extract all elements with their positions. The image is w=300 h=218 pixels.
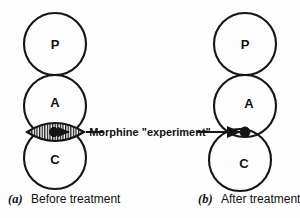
circle-a-label: A: [244, 96, 254, 111]
circle-p-label: P: [241, 37, 250, 52]
panel-a-caption: (a) Before treatment: [8, 189, 121, 206]
morphine-dot: [240, 127, 250, 137]
circle-c-label: C: [239, 156, 249, 171]
circle-a-label: A: [50, 95, 60, 110]
diagram-canvas: P A C (a) Before treatm: [0, 0, 300, 218]
panel-b: P A C (b) After treatment: [198, 13, 300, 206]
circle-p: P: [24, 13, 86, 75]
morphine-dot: [49, 127, 58, 136]
panel-a: P A C (a) Before treatm: [8, 13, 121, 206]
panel-b-caption-index: (b): [198, 192, 213, 206]
circle-p: P: [214, 13, 276, 75]
callout-group: Morphine "experiment": [86, 126, 240, 138]
callout-label: Morphine "experiment": [89, 126, 211, 138]
circle-c: C: [209, 129, 271, 191]
panel-b-caption: (b) After treatment: [198, 189, 300, 206]
circle-c-label: C: [50, 152, 60, 167]
circle-p-label: P: [51, 37, 60, 52]
panel-b-caption-text: After treatment: [221, 192, 300, 206]
panel-a-caption-text: Before treatment: [31, 192, 121, 206]
figure-container: P A C (a) Before treatm: [0, 0, 300, 218]
panel-a-caption-index: (a): [8, 192, 23, 206]
